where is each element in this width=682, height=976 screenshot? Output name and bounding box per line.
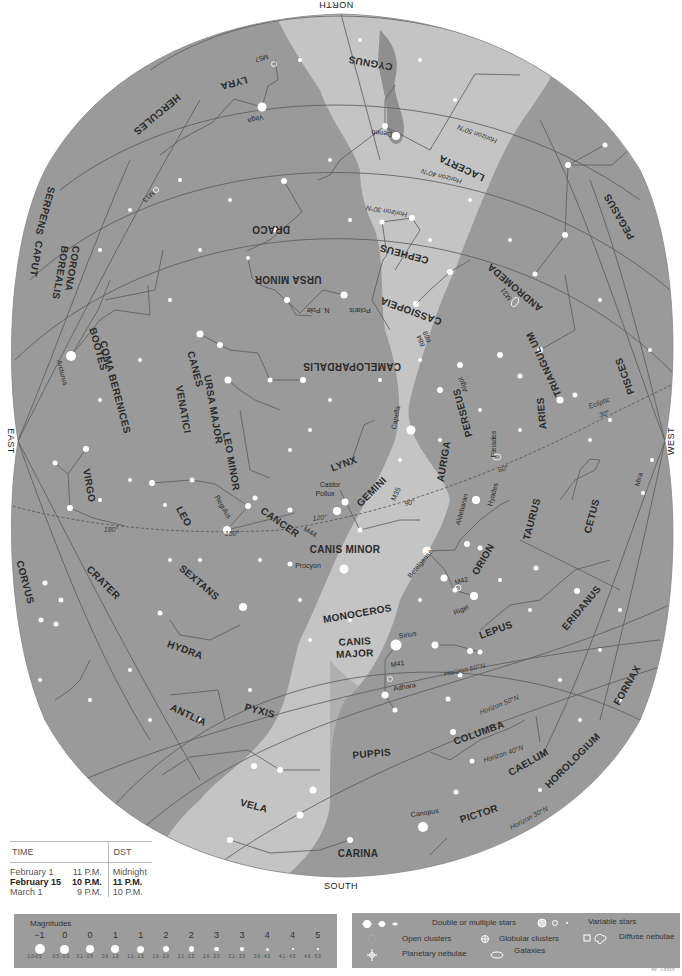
magnitude-value: 0 xyxy=(78,930,103,941)
magnitude-dot-icon xyxy=(137,946,144,953)
magnitude-range: 3.1 - 3.5 xyxy=(228,954,245,959)
time-row: February 111 P.M. xyxy=(10,867,108,877)
magnitude-step: 3 xyxy=(204,930,229,951)
star-label: Pollux xyxy=(315,490,335,497)
magnitude-title: Magnitudes xyxy=(30,919,71,928)
diffuse-nebula-icon xyxy=(583,931,609,947)
dst-header: DST xyxy=(108,842,152,862)
legend-open-clusters: Open clusters xyxy=(402,934,451,943)
planetary-nebula-icon xyxy=(367,949,377,961)
legend-planetary-nebulae: Planetary nebulae xyxy=(402,949,467,958)
magnitude-range: -0.5 - 0.0 xyxy=(51,954,69,959)
magnitude-step: 2 xyxy=(154,930,179,952)
constellation-label: CANIS MINOR xyxy=(310,544,381,555)
sky-area: CYGNUSLYRAHERCULESLACERTAPEGASUSSERPENSC… xyxy=(0,0,682,900)
star-label: N. Pole xyxy=(306,307,329,314)
legend-globular-clusters: Globular clusters xyxy=(499,934,559,943)
magnitude-dot-icon xyxy=(189,946,195,952)
magnitude-range: 1.6 - 2.0 xyxy=(153,954,170,959)
open-cluster-icon xyxy=(367,934,377,944)
magnitude-step: 5 xyxy=(305,930,330,950)
magnitude-step: 4 xyxy=(280,930,305,950)
constellation-label: MAJOR xyxy=(336,647,375,660)
magnitude-range: 2.1 - 2.5 xyxy=(178,954,195,959)
magnitude-range: 3.6 - 4.0 xyxy=(254,954,271,959)
magnitude-range: 0.1 - 0.5 xyxy=(77,954,94,959)
dst-value-current: 11 P.M. xyxy=(113,877,152,887)
constellation-label: URSA MINOR xyxy=(254,274,322,285)
ecliptic-mark: 180° xyxy=(104,526,119,533)
magnitude-value: 4 xyxy=(255,930,280,941)
symbol-legend: Double or multiple stars Variable stars … xyxy=(352,913,680,968)
magnitude-step: 0 xyxy=(78,930,103,953)
magnitude-value: 5 xyxy=(305,930,330,941)
galaxy-icon xyxy=(490,950,504,960)
artist-signature: W. Tirion xyxy=(651,966,675,972)
dst-value: Midnight xyxy=(113,867,152,877)
magnitude-range: 4.1 - 4.5 xyxy=(279,954,296,959)
magnitude-dot-icon xyxy=(266,948,269,951)
magnitude-range: 0.6 - 1.0 xyxy=(102,954,119,959)
constellation-label: CANIS xyxy=(338,635,371,648)
magnitude-value: 1 xyxy=(128,930,153,941)
magnitude-step: 0 xyxy=(52,930,77,954)
direction-east: EAST xyxy=(6,428,16,454)
magnitude-range: 2.6 - 3.0 xyxy=(203,954,220,959)
time-row-current: February 1510 P.M. xyxy=(10,877,108,887)
magnitude-dot-icon xyxy=(86,945,95,954)
magnitude-range: 1.1 - 1.5 xyxy=(127,954,144,959)
magnitude-step: 4 xyxy=(255,930,280,951)
magnitude-value: 3 xyxy=(229,930,254,941)
constellation-label: CARINA xyxy=(338,848,379,859)
magnitude-legend: Magnitudes −1-1.0-0.50-0.5 - 0.000.1 - 0… xyxy=(14,914,337,968)
magnitude-value: −1 xyxy=(27,930,52,941)
ecliptic-mark: 150° xyxy=(225,530,240,537)
star-label: Polaris xyxy=(349,307,371,314)
magnitude-dot-icon xyxy=(163,946,170,953)
time-header: TIME xyxy=(10,847,108,857)
time-table: TIME DST February 111 P.M. February 1510… xyxy=(10,841,152,897)
magnitude-dot-icon xyxy=(111,945,119,953)
double-star-icon xyxy=(362,919,412,929)
legend-double-stars: Double or multiple stars xyxy=(432,918,516,927)
time-row: March 19 P.M. xyxy=(10,887,108,897)
magnitude-dot-icon xyxy=(292,948,294,950)
magnitude-value: 1 xyxy=(103,930,128,941)
direction-west: WEST xyxy=(666,427,676,455)
magnitude-range: 4.6 - 5.0 xyxy=(304,954,321,959)
constellation-label: CAMELOPARDALIS xyxy=(303,361,401,372)
magnitude-step: 1 xyxy=(103,930,128,953)
direction-north: NORTH xyxy=(319,0,353,10)
legend-variable-stars: Variable stars xyxy=(588,917,636,926)
magnitude-dot-icon xyxy=(317,948,319,950)
magnitude-step: 1 xyxy=(128,930,153,953)
magnitude-step: 2 xyxy=(179,930,204,952)
deep-sky-label: Pleiades xyxy=(490,430,497,457)
globular-cluster-icon xyxy=(480,934,490,944)
legend-galaxies: Galaxies xyxy=(514,946,545,955)
dst-value: 10 P.M. xyxy=(113,887,152,897)
ecliptic-mark: 120° xyxy=(312,513,327,521)
variable-star-icon xyxy=(537,918,582,928)
magnitude-value: 4 xyxy=(280,930,305,941)
star-label: Procyon xyxy=(295,562,321,570)
magnitude-value: 3 xyxy=(204,930,229,941)
magnitude-value: 0 xyxy=(52,930,77,941)
magnitude-dot-icon xyxy=(60,945,69,954)
star-label: Castor xyxy=(320,481,341,488)
magnitude-dot-icon xyxy=(35,944,45,954)
magnitude-value: 2 xyxy=(154,930,179,941)
magnitude-step: −1 xyxy=(27,930,52,954)
legend-diffuse-nebulae: Diffuse nebulae xyxy=(619,932,674,941)
star-chart: CYGNUSLYRAHERCULESLACERTAPEGASUSSERPENSC… xyxy=(0,0,682,976)
constellation-label: DRACO xyxy=(252,224,290,235)
magnitude-value: 2 xyxy=(179,930,204,941)
horizon-label: Horizon 60°N xyxy=(473,8,515,32)
direction-south: SOUTH xyxy=(324,881,358,891)
magnitude-dot-icon xyxy=(214,947,219,952)
magnitude-dot-icon xyxy=(240,947,244,951)
magnitude-step: 3 xyxy=(229,930,254,951)
magnitude-range: -1.0-0.5 xyxy=(26,954,42,959)
